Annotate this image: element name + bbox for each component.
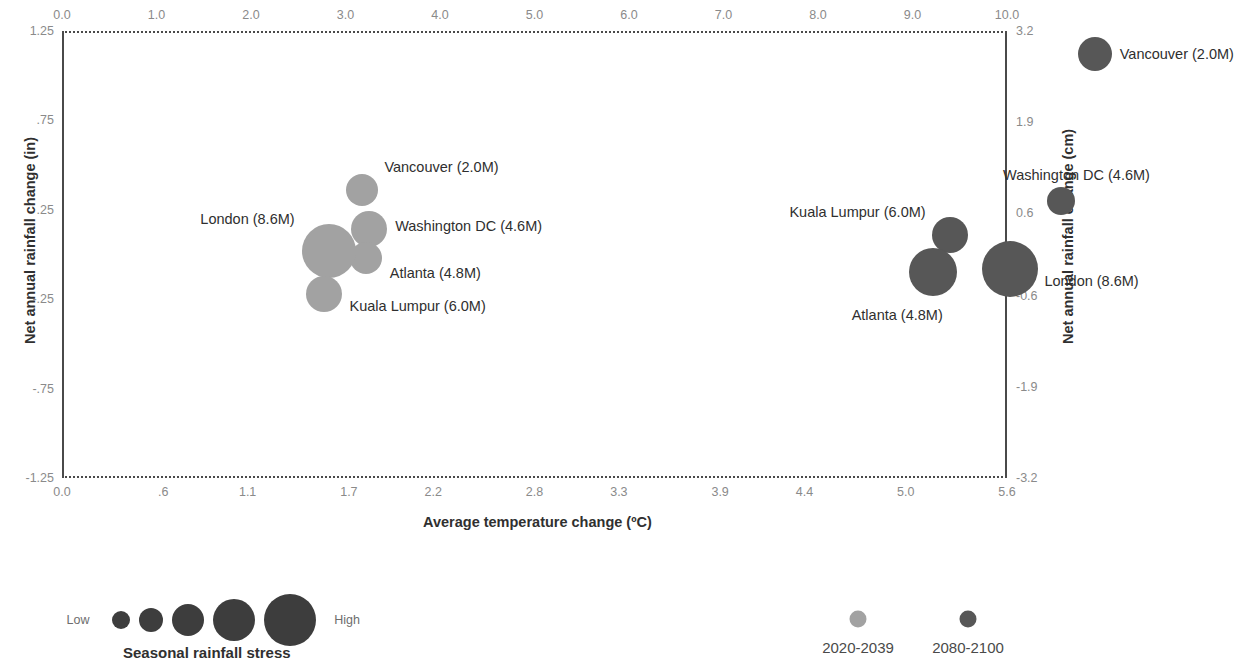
size-legend-bubble xyxy=(172,604,204,636)
top-tick-label: 3.0 xyxy=(337,8,354,22)
data-bubble[interactable] xyxy=(1047,187,1075,215)
x-axis-title: Average temperature change (ºC) xyxy=(423,514,652,530)
data-point-label: Vancouver (2.0M) xyxy=(384,159,498,175)
right-tick-label: 3.2 xyxy=(1016,24,1033,38)
top-tick-label: 9.0 xyxy=(904,8,921,22)
data-points-layer: Vancouver (2.0M)Washington DC (4.6M)Atla… xyxy=(62,31,1007,478)
data-bubble[interactable] xyxy=(346,174,378,206)
top-tick-label: 10.0 xyxy=(995,8,1019,22)
data-point-label: Vancouver (2.0M) xyxy=(1120,46,1234,62)
top-tick-label: 7.0 xyxy=(715,8,732,22)
bottom-tick-label: 4.4 xyxy=(796,485,813,499)
data-bubble[interactable] xyxy=(306,276,342,312)
top-tick-label: 8.0 xyxy=(809,8,826,22)
data-point-label: Kuala Lumpur (6.0M) xyxy=(350,298,486,314)
data-point-label: London (8.6M) xyxy=(200,211,294,227)
top-tick-label: 6.0 xyxy=(620,8,637,22)
series-legend-swatch[interactable] xyxy=(850,611,867,628)
series-legend-label[interactable]: 2020-2039 xyxy=(822,639,894,656)
data-bubble[interactable] xyxy=(909,248,957,296)
top-tick-label: 4.0 xyxy=(431,8,448,22)
bottom-tick-label: 3.9 xyxy=(711,485,728,499)
right-tick-label: -1.9 xyxy=(1016,380,1038,394)
left-tick-label: 1.25 xyxy=(0,24,54,38)
bottom-tick-label: 0.0 xyxy=(53,485,70,499)
left-tick-label: -1.25 xyxy=(0,471,54,485)
bottom-tick-label: 3.3 xyxy=(610,485,627,499)
size-legend-title: Seasonal rainfall stress xyxy=(123,644,291,661)
data-bubble[interactable] xyxy=(932,217,968,253)
right-tick-label: 0.6 xyxy=(1016,206,1033,220)
size-legend-bubble xyxy=(213,599,255,641)
bottom-tick-label: .6 xyxy=(158,485,168,499)
series-legend: 2020-20392080-2100 xyxy=(760,595,1060,665)
data-point-label: Washington DC (4.6M) xyxy=(1003,167,1150,183)
size-legend-bubble xyxy=(139,608,163,632)
data-point-label: Kuala Lumpur (6.0M) xyxy=(789,204,925,220)
bottom-tick-label: 5.0 xyxy=(897,485,914,499)
series-legend-label[interactable]: 2080-2100 xyxy=(932,639,1004,656)
series-legend-swatch[interactable] xyxy=(960,611,977,628)
bottom-tick-label: 1.7 xyxy=(340,485,357,499)
bottom-tick-label: 2.8 xyxy=(526,485,543,499)
bottom-tick-label: 5.6 xyxy=(998,485,1015,499)
size-legend: Low High Seasonal rainfall stress xyxy=(0,560,420,672)
data-bubble[interactable] xyxy=(302,224,356,278)
top-tick-label: 1.0 xyxy=(148,8,165,22)
bottom-tick-label: 1.1 xyxy=(239,485,256,499)
top-tick-label: 5.0 xyxy=(526,8,543,22)
data-point-label: Atlanta (4.8M) xyxy=(390,265,481,281)
data-point-label: Washington DC (4.6M) xyxy=(395,218,542,234)
data-bubble[interactable] xyxy=(1078,37,1112,71)
y-axis-right-title: Net annual rainfall change (cm) xyxy=(1060,129,1076,344)
size-legend-bubble xyxy=(112,611,130,629)
right-tick-label: 1.9 xyxy=(1016,115,1033,129)
size-legend-high-label: High xyxy=(334,613,360,627)
size-legend-low-label: Low xyxy=(67,613,90,627)
top-tick-label: 2.0 xyxy=(242,8,259,22)
size-legend-bubble xyxy=(264,594,316,646)
data-point-label: London (8.6M) xyxy=(1044,273,1138,289)
bottom-tick-label: 2.2 xyxy=(425,485,442,499)
top-tick-label: 0.0 xyxy=(53,8,70,22)
left-tick-label: .75 xyxy=(0,113,54,127)
y-axis-left-title: Net annual rainfall change (in) xyxy=(22,137,38,344)
data-bubble[interactable] xyxy=(982,241,1038,297)
right-tick-label: -3.2 xyxy=(1016,471,1038,485)
data-point-label: Atlanta (4.8M) xyxy=(852,307,943,323)
left-tick-label: -.75 xyxy=(0,382,54,396)
